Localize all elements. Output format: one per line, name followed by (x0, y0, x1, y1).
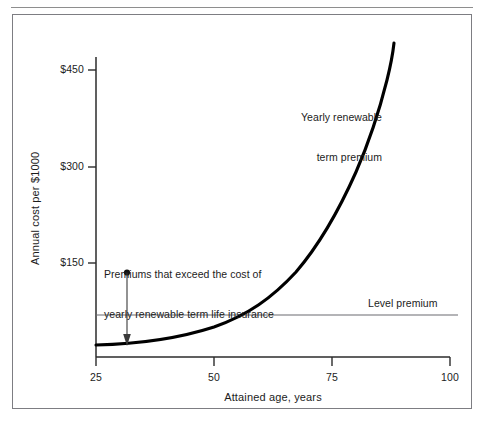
yearly-renewable-term-premium-label: Yearly renewable term premium (268, 84, 382, 192)
x-tick-label-25: 25 (76, 371, 116, 384)
yrt-label-line-1: Yearly renewable (268, 111, 382, 124)
yrt-label-line-2: term premium (268, 151, 382, 164)
excess-label-line-2: yearly renewable term life insurance (104, 308, 314, 321)
y-tick-label-300: $300 (36, 160, 84, 173)
figure-page: $450 $300 $150 25 50 75 100 Annual cost … (0, 0, 484, 425)
x-tick-label-75: 75 (312, 371, 352, 384)
x-tick-label-50: 50 (194, 371, 234, 384)
x-axis-title: Attained age, years (153, 390, 393, 404)
y-tick-label-450: $450 (36, 63, 84, 76)
excess-label-line-1: Premiums that exceed the cost of (104, 268, 314, 281)
excess-premium-label: Premiums that exceed the cost of yearly … (104, 241, 314, 349)
x-tick-label-100: 100 (430, 371, 470, 384)
y-tick-label-150: $150 (36, 256, 84, 269)
y-axis-title: Annual cost per $1000 (28, 105, 42, 265)
level-premium-label: Level premium (368, 297, 468, 310)
